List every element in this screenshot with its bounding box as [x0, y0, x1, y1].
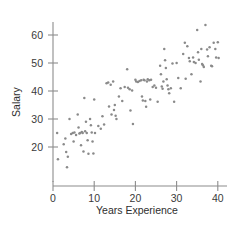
data-point [66, 166, 69, 169]
data-point [149, 98, 152, 101]
y-axis: 2030405060 Salary [10, 22, 58, 182]
data-point [129, 109, 132, 112]
data-point [156, 100, 159, 103]
y-tick-label: 40 [31, 85, 43, 97]
data-point [145, 105, 148, 108]
data-point [217, 57, 220, 60]
data-point [200, 48, 203, 51]
data-point [114, 104, 117, 107]
data-point [184, 77, 187, 80]
data-point [101, 115, 104, 118]
data-point [97, 125, 100, 128]
data-point [188, 57, 191, 60]
data-point [206, 48, 209, 51]
data-point [123, 86, 126, 89]
plot-canvas: 2030405060 Salary 010203040 Years Experi… [0, 0, 239, 226]
y-tick-label: 60 [31, 29, 43, 41]
data-point [91, 140, 94, 143]
data-point [115, 118, 118, 121]
data-point [196, 29, 199, 32]
data-point [86, 139, 89, 142]
x-tick-label: 40 [212, 192, 224, 204]
data-point [109, 84, 112, 87]
data-point [68, 118, 71, 121]
data-point [140, 79, 143, 82]
data-point [100, 128, 103, 131]
y-tick-label: 50 [31, 57, 43, 69]
data-point [153, 84, 156, 87]
data-point [168, 92, 171, 95]
y-axis-title: Salary [10, 86, 22, 117]
data-point [57, 158, 60, 161]
data-point [161, 85, 164, 88]
data-point [86, 132, 89, 135]
data-point [170, 87, 173, 90]
data-point [175, 62, 178, 65]
data-points [56, 24, 220, 169]
data-point [189, 60, 192, 63]
x-axis-title: Years Experience [96, 204, 178, 216]
data-point [113, 109, 116, 112]
data-point [212, 42, 215, 45]
data-point [76, 113, 79, 116]
data-point [190, 73, 193, 76]
data-point [184, 42, 187, 45]
data-point [150, 79, 153, 82]
data-point [215, 56, 218, 59]
x-tick-label: 20 [130, 192, 142, 204]
y-tick-label: 30 [31, 113, 43, 125]
data-point [142, 99, 145, 102]
data-point [80, 144, 83, 147]
data-point [118, 95, 121, 98]
data-point [119, 87, 122, 90]
data-point [203, 66, 206, 69]
data-point [131, 89, 134, 92]
data-point [73, 131, 76, 134]
data-point [83, 97, 86, 100]
data-point [177, 77, 180, 80]
data-point [207, 55, 210, 58]
data-point [199, 80, 202, 83]
data-point [155, 86, 158, 89]
data-point [165, 78, 168, 81]
data-point [62, 143, 65, 146]
data-point [107, 81, 110, 84]
data-point [161, 88, 164, 91]
data-point [77, 126, 80, 128]
x-tick-label: 30 [171, 192, 183, 204]
data-point [214, 48, 217, 51]
data-point [89, 118, 92, 121]
data-point [217, 41, 220, 44]
data-point [93, 98, 96, 101]
data-point [163, 48, 166, 51]
data-point [132, 123, 135, 126]
x-tick-label: 0 [50, 192, 56, 204]
data-point [179, 87, 182, 90]
data-point [67, 156, 70, 159]
data-point [108, 105, 111, 108]
data-point [186, 45, 189, 48]
data-point [164, 59, 167, 62]
data-point [197, 51, 200, 54]
data-point [204, 24, 207, 27]
data-point [171, 62, 174, 64]
data-point [90, 124, 93, 127]
data-point [162, 80, 165, 83]
data-point [94, 132, 97, 135]
data-point [56, 132, 59, 135]
data-point [208, 46, 211, 49]
x-axis-tick-labels: 010203040 [50, 192, 224, 204]
data-point [166, 84, 169, 87]
data-point [182, 53, 185, 56]
data-point [126, 68, 129, 71]
data-point [90, 131, 93, 134]
data-point [121, 100, 124, 103]
data-point [75, 134, 78, 137]
data-point [110, 113, 113, 116]
data-point [141, 95, 144, 98]
data-point [143, 79, 146, 82]
y-tick-label: 20 [31, 141, 43, 153]
data-point [165, 67, 168, 70]
data-point [81, 132, 84, 135]
data-point [128, 88, 131, 91]
